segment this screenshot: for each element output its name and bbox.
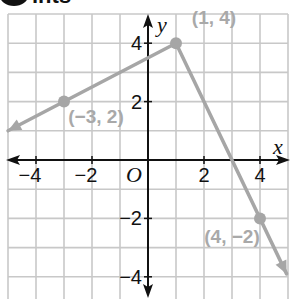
y-axis-label: y xyxy=(155,12,167,37)
point-annotation: (4, −2) xyxy=(204,226,259,247)
point-annotation: (−3, 2) xyxy=(68,106,123,127)
y-tick-label: −2 xyxy=(119,207,142,229)
coordinate-plane: −4−22442−2−4Oxy(−3, 2)(1, 4)(4, −2) xyxy=(0,0,293,299)
y-tick-label: 4 xyxy=(131,32,142,54)
data-point xyxy=(170,37,182,49)
labels: −4−22442−2−4Oxy(−3, 2)(1, 4)(4, −2) xyxy=(19,7,284,288)
x-tick-label: −4 xyxy=(19,164,42,186)
x-tick-label: −2 xyxy=(75,164,98,186)
y-tick-label: 2 xyxy=(131,91,142,113)
point-annotation: (1, 4) xyxy=(192,7,236,28)
x-axis-label: x xyxy=(272,134,283,159)
x-tick-label: 2 xyxy=(198,164,209,186)
y-tick-label: −4 xyxy=(119,266,142,288)
x-tick-label: 4 xyxy=(254,164,265,186)
origin-label: O xyxy=(126,162,142,187)
data-point xyxy=(254,212,266,224)
